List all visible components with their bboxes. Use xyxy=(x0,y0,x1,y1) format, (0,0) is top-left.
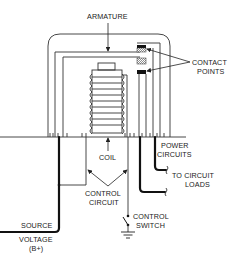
control-circuit-label-line1: CONTROL xyxy=(85,189,121,198)
base-ticks xyxy=(50,133,164,137)
source-voltage-label-line2: VOLTAGE xyxy=(19,235,53,244)
to-circuit-loads-label-line2: LOADS xyxy=(185,180,210,189)
to-circuit-loads-label-line1: TO CIRCUIT xyxy=(172,171,215,180)
switch-contact-top xyxy=(127,215,130,218)
power-circuits-label-line1: POWER xyxy=(161,141,189,150)
control-switch-blade xyxy=(123,217,128,225)
ground-icon xyxy=(121,232,135,238)
relay-diagram: ARMATURE CONTACT POINTS COIL CONTROL CIR… xyxy=(0,0,242,268)
contact-points-label-line1: CONTACT xyxy=(192,58,227,67)
control-circuit-arrow-right xyxy=(108,170,127,186)
coil-windings xyxy=(90,74,124,134)
coil-body xyxy=(92,70,122,133)
armature-label: ARMATURE xyxy=(87,12,128,21)
control-circuit-left-wire xyxy=(59,137,86,185)
contact-point-upper-solid xyxy=(137,45,146,48)
control-switch-label-line2: SWITCH xyxy=(136,221,165,230)
source-voltage-label-line3: (B+) xyxy=(29,244,43,253)
power-circuits-label-line2: CIRCUITS xyxy=(157,150,192,159)
control-switch-label-line1: CONTROL xyxy=(133,212,169,221)
source-voltage-wire xyxy=(0,137,59,232)
coil-label: COIL xyxy=(99,153,116,162)
contact-point-upper-hatch xyxy=(137,48,146,52)
contact-points-label-line2: POINTS xyxy=(197,67,224,76)
relay-frame xyxy=(48,34,170,137)
control-circuit-label-line2: CIRCUIT xyxy=(89,198,119,207)
junction-dot xyxy=(58,184,61,187)
contact-point-lower-solid xyxy=(137,70,146,74)
source-voltage-label-line1: SOURCE xyxy=(21,221,52,230)
contact-point-mid-hatch xyxy=(137,58,146,64)
control-circuit-arrow-left xyxy=(88,170,108,186)
contact-housing xyxy=(137,43,160,137)
coil-core-cap xyxy=(98,63,115,70)
